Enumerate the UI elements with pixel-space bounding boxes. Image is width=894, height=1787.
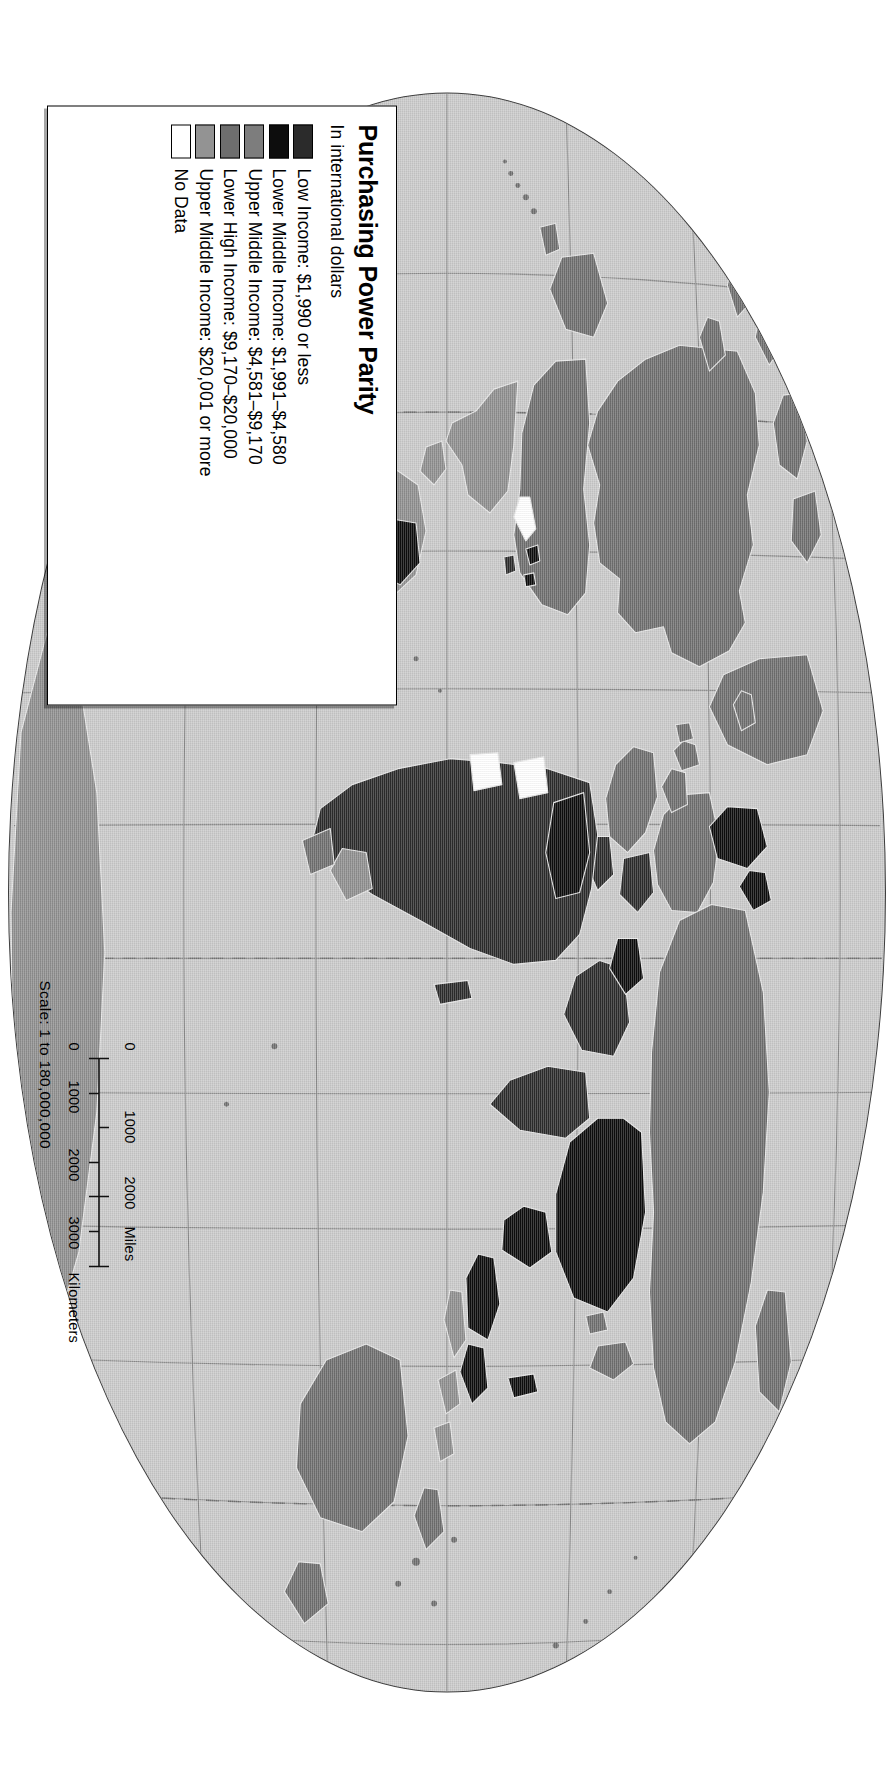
legend-swatch-icon — [196, 124, 216, 158]
legend-item-label: No Data — [171, 168, 192, 233]
scale-km-tick-3000: 3000 — [66, 1216, 82, 1249]
legend-subtitle: In international dollars — [326, 124, 347, 688]
legend-item-label: Lower Middle Income: $1,991–$4,580 — [269, 168, 290, 464]
legend-title: Purchasing Power Parity — [353, 124, 382, 688]
legend-item-upper-middle-income: Upper Middle Income: $4,581–$9,170 — [244, 124, 265, 688]
legend-item-label: Low Income: $1,990 or less — [293, 168, 314, 385]
scale-bar: 0 1000 2000 Miles 0 1000 2000 3000 K — [24, 980, 174, 1400]
legend-items: Low Income: $1,990 or less Lower Middle … — [171, 124, 315, 688]
legend-item-lower-high-income: Lower High Income: $9,170–$20,000 — [220, 124, 241, 688]
legend-item-label: Upper Middle Income: $4,581–$9,170 — [244, 168, 265, 464]
scale-ratio-text: Scale: 1 to 180,000,000 — [36, 980, 54, 1148]
scale-bar-rule — [86, 1052, 112, 1290]
legend-item-label: Upper Middle Income: $20,001 or more — [195, 168, 216, 476]
scale-km-unit: Kilometers — [66, 1272, 82, 1343]
map-legend: Purchasing Power Parity In international… — [47, 105, 397, 705]
scale-miles-tick-2000: 2000 — [122, 1176, 138, 1209]
legend-swatch-icon — [269, 124, 289, 158]
legend-item-low-income: Low Income: $1,990 or less — [293, 124, 314, 688]
legend-item-upper-high-income: Upper Middle Income: $20,001 or more — [195, 124, 216, 688]
legend-swatch-icon — [171, 124, 191, 158]
legend-item-lower-middle-income: Lower Middle Income: $1,991–$4,580 — [269, 124, 290, 688]
legend-swatch-icon — [245, 124, 265, 158]
scale-km-tick-1000: 1000 — [66, 1080, 82, 1113]
legend-swatch-icon — [294, 124, 314, 158]
map-sheet: 0 1000 2000 Miles 0 1000 2000 3000 K — [0, 0, 894, 1787]
scale-miles-tick-0: 0 — [122, 1042, 138, 1050]
legend-swatch-icon — [220, 124, 240, 158]
legend-item-no-data: No Data — [171, 124, 192, 688]
legend-item-label: Lower High Income: $9,170–$20,000 — [220, 168, 241, 458]
scale-miles-unit: Miles — [122, 1226, 138, 1261]
scale-km-tick-0: 0 — [66, 1042, 82, 1050]
scale-km-tick-2000: 2000 — [66, 1148, 82, 1181]
scale-miles-tick-1000: 1000 — [122, 1110, 138, 1143]
